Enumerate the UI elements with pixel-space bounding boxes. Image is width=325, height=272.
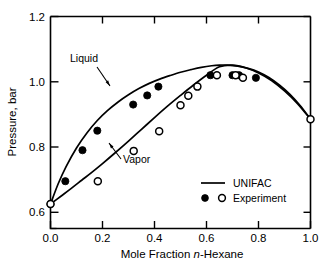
data-point [194, 83, 201, 90]
data-point [307, 116, 314, 123]
legend-label-experiment: Experiment [233, 192, 286, 204]
pxy-phase-diagram: 1.2 1.0 0.8 0.6 0.0 0.2 0.4 0.6 0.8 1.0 … [0, 0, 325, 272]
annotation-liquid-label: Liquid [70, 52, 98, 64]
y-tick-label-0.8: 0.8 [29, 141, 45, 153]
data-point [144, 92, 151, 99]
data-point [232, 72, 239, 79]
x-axis-title-prefix: Mole Fraction [121, 248, 194, 260]
data-point [252, 74, 259, 81]
data-point [94, 127, 101, 134]
annotation-vapor-label: Vapor [123, 153, 151, 165]
x-tick-label-1.0: 1.0 [303, 232, 319, 244]
y-tick-label-1.2: 1.2 [29, 11, 45, 23]
x-axis-title-suffix: -Hexane [200, 248, 243, 260]
x-axis-title: Mole Fraction n-Hexane [121, 248, 244, 260]
x-tick-label-0.6: 0.6 [199, 232, 215, 244]
data-point [79, 147, 86, 154]
legend-open-circle-icon [219, 195, 226, 202]
y-axis-title: Pressure, bar [6, 87, 18, 156]
x-tick-label-0.8: 0.8 [251, 232, 267, 244]
x-tick-label-0.0: 0.0 [43, 232, 59, 244]
chart-figure: 1.2 1.0 0.8 0.6 0.0 0.2 0.4 0.6 0.8 1.0 … [0, 0, 325, 272]
x-tick-label-0.2: 0.2 [95, 232, 111, 244]
data-point [155, 83, 162, 90]
legend-filled-circle-icon [202, 195, 209, 202]
data-point [185, 92, 192, 99]
data-point [47, 201, 54, 208]
y-tick-label-0.6: 0.6 [29, 206, 45, 218]
y-tick-label-1.0: 1.0 [29, 76, 45, 88]
data-point [94, 178, 101, 185]
data-point [213, 72, 220, 79]
x-tick-label-0.4: 0.4 [147, 232, 164, 244]
data-point [177, 102, 184, 109]
data-point [130, 101, 137, 108]
data-point [239, 74, 246, 81]
data-point [62, 178, 69, 185]
data-point [156, 128, 163, 135]
legend-label-unifac: UNIFAC [233, 177, 272, 189]
